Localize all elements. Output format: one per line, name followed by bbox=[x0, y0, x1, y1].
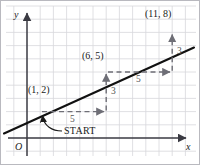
start-callout-layer bbox=[0, 0, 200, 165]
start-pointer-curve bbox=[43, 116, 63, 131]
origin-label: O bbox=[15, 142, 22, 152]
rise-label-2: 3 bbox=[177, 47, 182, 57]
point-label-1: (1, 2) bbox=[28, 85, 50, 95]
x-axis-label: x bbox=[186, 142, 190, 152]
figure-container: (1, 2) (6, 5) (11, 8) 5 3 5 3 START y x … bbox=[0, 0, 200, 165]
rise-label-1: 3 bbox=[111, 87, 116, 97]
point-label-3: (11, 8) bbox=[145, 9, 171, 19]
point-label-2: (6, 5) bbox=[82, 51, 104, 61]
y-axis-label: y bbox=[14, 10, 18, 20]
run-label-1: 5 bbox=[70, 115, 75, 125]
start-label: START bbox=[64, 126, 96, 136]
run-label-2: 5 bbox=[136, 75, 141, 85]
